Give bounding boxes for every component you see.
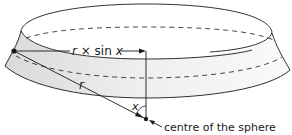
- centre-arrowhead-icon: [149, 120, 155, 125]
- band-point: [11, 48, 16, 53]
- hidden-upper-circle: [26, 27, 276, 41]
- angle-label: x: [131, 100, 139, 113]
- centre-point: [144, 117, 148, 121]
- horizontal-arrowhead-icon: [139, 49, 146, 54]
- centre-label: centre of the sphere: [164, 121, 276, 134]
- sphere-band-diagram: r × sin x r x centre of the sphere: [0, 0, 292, 135]
- label-x: x: [115, 44, 124, 58]
- horizontal-radius-label: r × sin x: [72, 44, 124, 58]
- top-rim-ellipse: [21, 4, 272, 52]
- label-times-sin: × sin: [77, 44, 116, 58]
